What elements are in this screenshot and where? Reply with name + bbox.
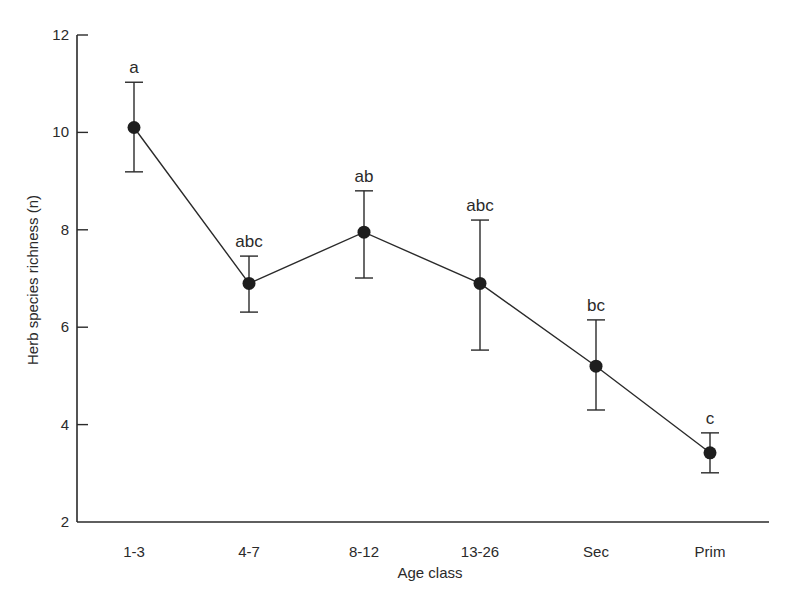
- significance-letter: c: [706, 409, 715, 428]
- significance-letter: a: [129, 58, 139, 77]
- data-point: [474, 277, 487, 290]
- data-point: [128, 121, 141, 134]
- series-line: [134, 128, 710, 453]
- significance-letter: ab: [355, 167, 374, 186]
- data-point: [358, 226, 371, 239]
- x-tick-label: 4-7: [238, 543, 260, 560]
- significance-letter: abc: [466, 196, 494, 215]
- y-tick-label: 10: [52, 123, 69, 140]
- y-tick-label: 6: [61, 318, 69, 335]
- data-point: [704, 446, 717, 459]
- x-tick-label: Sec: [583, 543, 609, 560]
- plot-area: 246810121-34-78-1213-26SecPrimaabcababcb…: [52, 26, 769, 560]
- significance-letter: abc: [235, 232, 263, 251]
- line-chart: 246810121-34-78-1213-26SecPrimaabcababcb…: [0, 0, 792, 611]
- y-axis-title: Herb species richness (n): [24, 195, 41, 365]
- chart-canvas: 246810121-34-78-1213-26SecPrimaabcababcb…: [0, 0, 792, 611]
- y-tick-label: 12: [52, 26, 69, 43]
- significance-letter: bc: [587, 296, 605, 315]
- data-point: [590, 360, 603, 373]
- x-tick-label: Prim: [695, 543, 726, 560]
- x-tick-label: 13-26: [461, 543, 499, 560]
- y-tick-label: 4: [61, 416, 69, 433]
- y-tick-label: 8: [61, 221, 69, 238]
- y-tick-label: 2: [61, 513, 69, 530]
- data-point: [243, 277, 256, 290]
- x-axis-title: Age class: [397, 564, 462, 581]
- x-tick-label: 8-12: [349, 543, 379, 560]
- x-tick-label: 1-3: [123, 543, 145, 560]
